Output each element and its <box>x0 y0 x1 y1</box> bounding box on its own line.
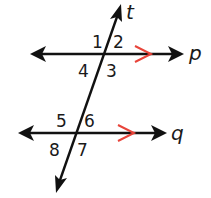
line-t <box>55 4 122 193</box>
angle-label-8: 8 <box>49 140 60 160</box>
angle-label-4: 4 <box>78 61 89 81</box>
transversal-diagram: t p q 1 2 3 4 5 6 7 8 <box>0 0 211 198</box>
label-p: p <box>188 41 202 65</box>
angle-label-3: 3 <box>106 61 117 81</box>
label-t: t <box>126 0 135 24</box>
label-q: q <box>171 121 184 145</box>
angle-label-1: 1 <box>92 32 103 52</box>
angle-label-5: 5 <box>56 111 67 131</box>
angle-label-2: 2 <box>113 32 124 52</box>
angle-label-6: 6 <box>84 111 95 131</box>
angle-label-7: 7 <box>77 140 88 160</box>
